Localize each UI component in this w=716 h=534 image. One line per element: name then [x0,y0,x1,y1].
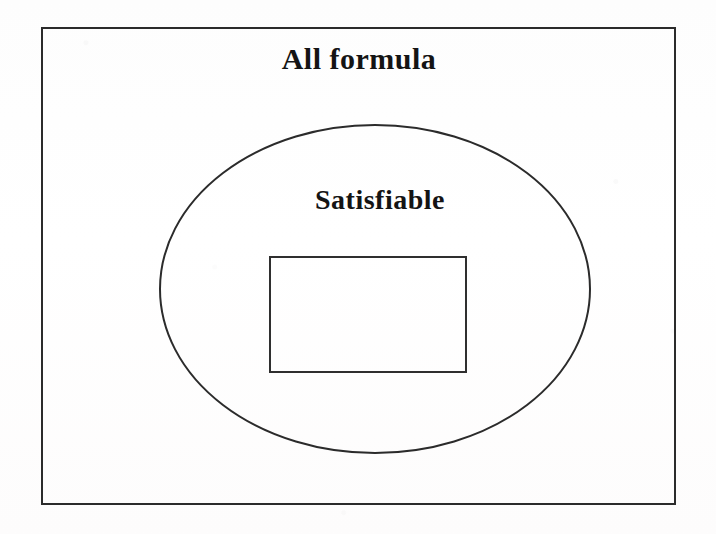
all-formula-label: All formula [282,42,437,76]
satisfiable-label: Satisfiable [315,184,445,216]
diagram-canvas: All formula Satisfiable [0,0,716,534]
inner-subset-region [269,256,467,373]
